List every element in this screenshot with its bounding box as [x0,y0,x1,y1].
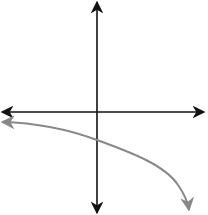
function-curve [2,122,189,210]
graph-canvas [0,0,208,215]
coordinate-plane [0,0,208,215]
